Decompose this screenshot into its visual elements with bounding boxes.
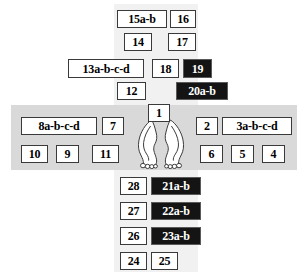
zone-box-label: 3a-b-c-d (236, 120, 277, 132)
zone-box-27[interactable]: 27 (120, 202, 147, 220)
feet-outline-icon (131, 118, 191, 174)
zone-box-9[interactable]: 9 (56, 145, 79, 163)
zone-box-26[interactable]: 26 (120, 227, 147, 245)
zone-box-label: 17 (176, 36, 188, 48)
zone-box-13a-b-c-d[interactable]: 13a-b-c-d (68, 59, 144, 78)
zone-box-label: 4 (271, 148, 277, 160)
zone-box-28[interactable]: 28 (120, 177, 147, 195)
zone-box-6[interactable]: 6 (200, 145, 223, 163)
zone-box-23a-b[interactable]: 23a-b (151, 227, 201, 245)
zone-box-10[interactable]: 10 (21, 145, 48, 163)
zone-box-5[interactable]: 5 (231, 145, 254, 163)
zone-box-label: 28 (128, 180, 140, 192)
zone-box-15a-b[interactable]: 15a-b (117, 10, 167, 28)
zone-box-7[interactable]: 7 (102, 117, 124, 135)
zone-box-label: 20a-b (188, 85, 216, 97)
zone-box-label: 24 (128, 255, 140, 267)
zone-box-4[interactable]: 4 (262, 145, 285, 163)
zone-box-22a-b[interactable]: 22a-b (151, 202, 201, 220)
zone-box-24[interactable]: 24 (120, 252, 147, 270)
zone-box-label: 19 (192, 62, 204, 74)
zone-box-label: 18 (160, 62, 172, 74)
feet-illustration (131, 118, 191, 174)
zone-box-label: 1 (156, 107, 162, 119)
zone-box-8a-b-c-d[interactable]: 8a-b-c-d (21, 117, 97, 135)
zone-box-3a-b-c-d[interactable]: 3a-b-c-d (222, 117, 292, 135)
zone-box-label: 21a-b (162, 180, 190, 192)
zone-box-label: 8a-b-c-d (38, 120, 79, 132)
zone-box-label: 12 (126, 85, 138, 97)
zone-box-20a-b[interactable]: 20a-b (176, 82, 228, 100)
zone-box-11[interactable]: 11 (92, 145, 119, 163)
zone-box-label: 9 (65, 148, 71, 160)
zone-box-label: 25 (159, 255, 171, 267)
zone-box-19[interactable]: 19 (183, 59, 212, 78)
zone-box-label: 27 (128, 205, 140, 217)
zone-box-21a-b[interactable]: 21a-b (151, 177, 201, 195)
zone-box-label: 22a-b (162, 205, 190, 217)
zone-box-label: 5 (240, 148, 246, 160)
zone-box-label: 10 (29, 148, 41, 160)
zone-box-1[interactable]: 1 (148, 104, 170, 122)
zone-box-2[interactable]: 2 (196, 117, 218, 135)
zone-box-label: 14 (132, 36, 144, 48)
zone-box-label: 23a-b (162, 230, 190, 242)
diagram-canvas: 15a-b16141713a-b-c-d18191220a-b18a-b-c-d… (0, 0, 307, 278)
zone-box-label: 6 (209, 148, 215, 160)
zone-box-12[interactable]: 12 (117, 82, 146, 100)
zone-box-label: 2 (204, 120, 210, 132)
zone-box-label: 16 (177, 13, 189, 25)
zone-box-label: 11 (100, 148, 111, 160)
zone-box-label: 26 (128, 230, 140, 242)
zone-box-label: 13a-b-c-d (83, 62, 130, 74)
zone-box-label: 7 (110, 120, 116, 132)
zone-box-25[interactable]: 25 (151, 252, 178, 270)
zone-box-label: 15a-b (128, 13, 156, 25)
zone-box-14[interactable]: 14 (124, 33, 152, 51)
zone-box-18[interactable]: 18 (152, 59, 179, 78)
zone-box-17[interactable]: 17 (168, 33, 196, 51)
zone-box-16[interactable]: 16 (170, 10, 196, 28)
